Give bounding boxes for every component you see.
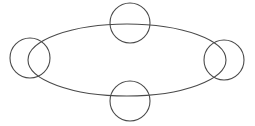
- right-node[interactable]: [204, 40, 244, 80]
- ring-ellipse: [28, 24, 226, 96]
- diagram-canvas: [0, 0, 255, 126]
- bottom-node[interactable]: [110, 81, 150, 121]
- left-node[interactable]: [10, 38, 50, 78]
- top-node[interactable]: [110, 3, 150, 43]
- ring-topology-diagram: [0, 0, 255, 126]
